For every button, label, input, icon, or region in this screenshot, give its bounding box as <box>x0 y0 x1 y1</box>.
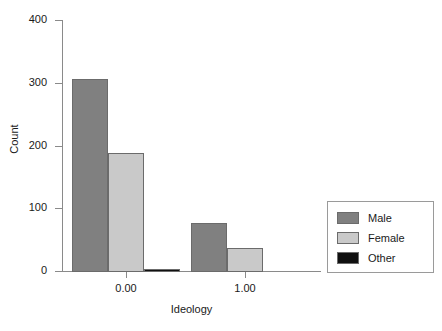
y-tick-1: 100 <box>18 208 55 209</box>
x-axis-title: Ideology <box>62 303 321 315</box>
y-tick-2: 200 <box>18 146 55 147</box>
y-tick-mark-2 <box>55 146 62 147</box>
y-tick-mark-1 <box>55 208 62 209</box>
bar-female-1.00 <box>227 248 263 272</box>
bar-other-0.00 <box>144 269 180 272</box>
x-tick-label-1: 1.00 <box>215 283 275 294</box>
legend-label-other: Other <box>368 253 396 264</box>
y-tick-3: 300 <box>18 83 55 84</box>
y-tick-mark-0 <box>55 271 62 272</box>
legend-item-other[interactable]: Other <box>337 250 396 266</box>
legend: Male Female Other <box>327 201 434 273</box>
x-tick-label-0: 0.00 <box>96 283 156 294</box>
y-tick-label-3: 300 <box>17 77 47 88</box>
y-tick-label-2: 200 <box>17 140 47 151</box>
bar-male-1.00 <box>191 223 227 272</box>
legend-label-male: Male <box>368 213 392 224</box>
bar-chart: 0 100 200 300 400 0.00 1.00 Ideology Cou… <box>0 0 442 331</box>
y-tick-mark-3 <box>55 83 62 84</box>
y-tick-mark-4 <box>55 20 62 21</box>
bar-female-0.00 <box>108 153 144 272</box>
legend-swatch-male <box>337 212 359 224</box>
x-tick-mark-1 <box>245 272 246 278</box>
legend-swatch-other <box>337 252 359 264</box>
legend-item-female[interactable]: Female <box>337 230 405 246</box>
bar-male-0.00 <box>72 79 108 272</box>
y-tick-label-0: 0 <box>17 265 47 276</box>
plot-area <box>62 20 320 272</box>
y-tick-label-1: 100 <box>17 202 47 213</box>
y-tick-label-4: 400 <box>17 14 47 25</box>
y-tick-0: 0 <box>18 271 55 272</box>
x-tick-mark-0 <box>126 272 127 278</box>
y-axis-title: Count <box>8 109 20 169</box>
legend-item-male[interactable]: Male <box>337 210 392 226</box>
y-tick-4: 400 <box>18 20 55 21</box>
legend-label-female: Female <box>368 233 405 244</box>
legend-swatch-female <box>337 232 359 244</box>
